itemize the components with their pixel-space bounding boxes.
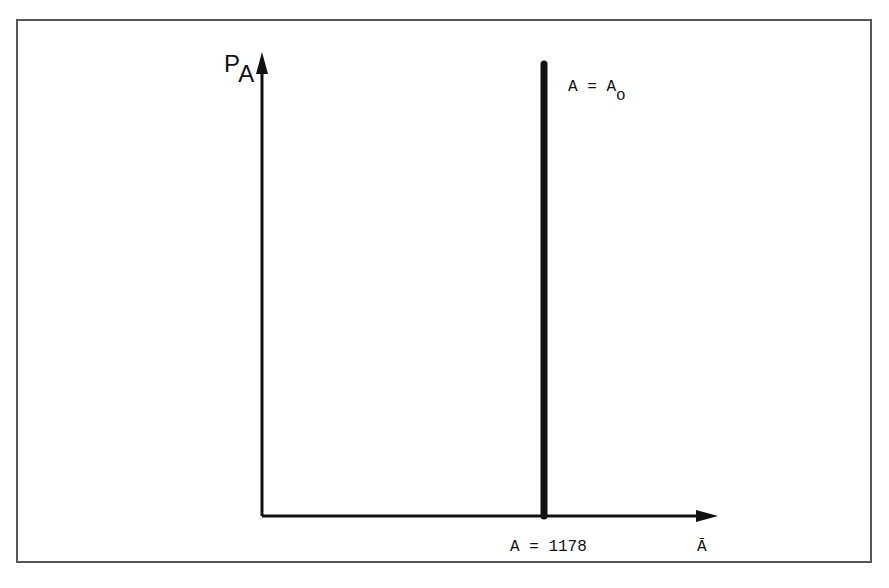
y-axis-arrow-icon [256, 52, 268, 74]
curve-label-sub: o [616, 87, 626, 105]
y-axis-label-sub: A [238, 60, 254, 87]
x-axis-arrow-icon [696, 510, 718, 522]
curve-label-main: A = A [568, 78, 616, 96]
chart-plot [0, 0, 889, 588]
y-axis-label: PA [224, 50, 254, 78]
y-axis-label-main: P [224, 50, 238, 77]
x-value-label: A = 1178 [510, 538, 587, 556]
x-axis-label: Ā [697, 538, 707, 556]
curve-label: A = Ao [568, 78, 626, 96]
